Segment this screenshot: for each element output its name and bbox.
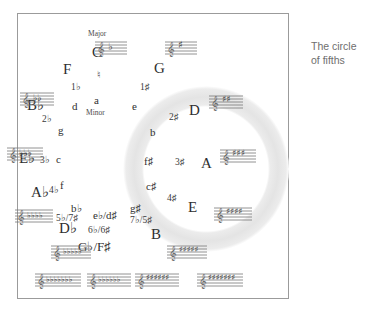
major-key-e[interactable]: E [188, 200, 197, 215]
staff-cb-major: 𝄞 ♭♭♭♭♭♭♭ [34, 270, 82, 290]
minor-key-g[interactable]: g [58, 125, 64, 136]
staff-e-major: 𝄞 ♯♯♯♯ [213, 204, 253, 224]
svg-text:♯♯♯: ♯♯♯ [232, 148, 245, 158]
svg-text:𝄞: 𝄞 [53, 245, 61, 261]
svg-text:𝄞: 𝄞 [9, 147, 17, 163]
accidentals-gb-fsharp: 6♭/6♯ [88, 226, 110, 236]
svg-text:♭♭♭♭♭♭: ♭♭♭♭♭♭ [98, 275, 121, 284]
svg-text:𝄞: 𝄞 [211, 95, 219, 111]
accidentals-b: 7♭/5♯ [130, 216, 152, 226]
figure-caption: The circle of fifths [311, 39, 375, 67]
minor-key-eb-dsharp[interactable]: e♭/d♯ [93, 210, 117, 221]
staff-g-major: 𝄞 ♯ [164, 38, 198, 58]
staff-b-major: 𝄞 ♯♯♯♯♯ [166, 242, 208, 262]
staff-gb-major: 𝄞 ♭♭♭♭♭♭ [86, 270, 132, 290]
staff-c-major [82, 32, 112, 50]
staff-ab-major: 𝄞 ♭♭♭♭ [14, 206, 54, 226]
staff-eb-major: 𝄞 ♭♭♭ [6, 144, 44, 164]
svg-text:♭♭♭♭♭: ♭♭♭♭♭ [63, 247, 82, 256]
svg-text:♭♭♭♭: ♭♭♭♭ [27, 210, 43, 220]
svg-text:𝄞: 𝄞 [22, 92, 30, 108]
svg-text:♯: ♯ [178, 39, 183, 50]
staff-bb-major: 𝄞 ♭♭ [19, 89, 55, 109]
major-key-b[interactable]: B [151, 227, 161, 242]
staff-a-major: 𝄞 ♯♯♯ [219, 146, 257, 166]
svg-text:♯♯♯♯♯♯: ♯♯♯♯♯♯ [146, 273, 169, 282]
svg-text:♯♯♯♯♯: ♯♯♯♯♯ [179, 245, 198, 254]
svg-text:𝄞: 𝄞 [37, 273, 45, 289]
staff-d-major: 𝄞 ♯♯ [208, 92, 244, 112]
svg-text:𝄞: 𝄞 [17, 209, 25, 225]
minor-key-e[interactable]: e [132, 101, 137, 112]
minor-key-fsharp[interactable]: f♯ [144, 156, 153, 167]
svg-text:𝄞: 𝄞 [216, 207, 224, 223]
minor-key-gsharp[interactable]: g♯ [130, 203, 141, 214]
svg-text:𝄞: 𝄞 [169, 245, 177, 261]
accidentals-ab: 4♭ [49, 186, 59, 196]
svg-text:♭♭♭♭♭♭♭: ♭♭♭♭♭♭♭ [46, 275, 73, 284]
minor-header-label: Minor [86, 109, 105, 117]
staff-db-major: 𝄞 ♭♭♭♭♭ [50, 242, 92, 262]
accidentals-a: 3♯ [175, 158, 185, 168]
minor-key-b[interactable]: b [150, 127, 156, 138]
major-key-f[interactable]: F [63, 62, 71, 77]
accidentals-d: 2♯ [169, 113, 179, 123]
svg-text:♯♯: ♯♯ [222, 94, 231, 104]
caption-line-2: of fifths [311, 53, 375, 67]
svg-text:♯♯♯♯♯♯♯: ♯♯♯♯♯♯♯ [208, 273, 235, 282]
accidentals-c: ♮ [97, 71, 101, 81]
staff-fsharp-major: 𝄞 ♯♯♯♯♯♯ [134, 270, 180, 290]
major-key-a[interactable]: A [201, 156, 212, 171]
minor-key-f[interactable]: f [60, 180, 64, 191]
accidentals-bb: 2♭ [42, 115, 52, 125]
svg-text:𝄞: 𝄞 [89, 273, 97, 289]
svg-text:𝄞: 𝄞 [199, 273, 207, 289]
accidentals-f: 1♭ [71, 83, 81, 93]
accidentals-db: 5♭/7♯ [56, 214, 78, 224]
diagram-frame: Major Minor C G D A E B G♭/F♯ D♭ A♭ E♭ B… [17, 13, 289, 299]
major-key-g[interactable]: G [154, 61, 165, 76]
accidentals-g: 1♯ [140, 83, 150, 93]
minor-key-csharp[interactable]: c♯ [146, 181, 156, 192]
caption-line-1: The circle [311, 39, 375, 53]
svg-text:♭♭♭: ♭♭♭ [19, 148, 32, 158]
minor-key-a[interactable]: a [94, 95, 99, 106]
major-key-d[interactable]: D [189, 103, 200, 118]
accidentals-e: 4♯ [167, 194, 177, 204]
minor-key-c[interactable]: c [56, 154, 61, 165]
svg-text:𝄞: 𝄞 [167, 41, 175, 57]
svg-text:𝄞: 𝄞 [222, 149, 230, 165]
svg-text:♭♭: ♭♭ [33, 93, 42, 103]
major-key-ab[interactable]: A♭ [31, 185, 49, 200]
minor-key-d[interactable]: d [72, 101, 78, 112]
staff-csharp-major: 𝄞 ♯♯♯♯♯♯♯ [196, 270, 244, 290]
svg-text:𝄞: 𝄞 [137, 273, 145, 289]
svg-text:♯♯♯♯: ♯♯♯♯ [226, 206, 242, 216]
